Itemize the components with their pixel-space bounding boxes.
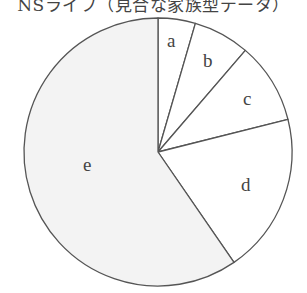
slice-label-c: c — [243, 88, 251, 109]
slice-label-d: d — [241, 174, 251, 195]
pie-slices — [24, 18, 292, 286]
slice-label-a: a — [167, 30, 176, 51]
slice-label-b: b — [203, 50, 213, 71]
pie-chart: a b c d e — [0, 0, 307, 293]
slice-label-e: e — [83, 154, 91, 175]
